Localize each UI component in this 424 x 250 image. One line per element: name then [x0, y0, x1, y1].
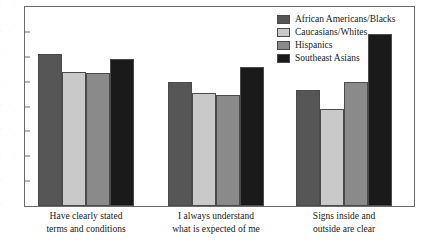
bar [320, 109, 344, 206]
x-axis-label-line: outside are clear [274, 223, 414, 236]
legend-swatch-icon [277, 28, 290, 37]
x-axis-labels: Have clearly statedterms and conditionsI… [25, 210, 414, 248]
legend-item[interactable]: African Americans/Blacks [277, 13, 417, 26]
x-axis-label: Have clearly statedterms and conditions [16, 210, 156, 235]
legend-swatch-icon [277, 41, 290, 50]
bar [240, 67, 264, 206]
bar [168, 82, 192, 206]
bar [216, 95, 240, 206]
x-axis-label-line: terms and conditions [16, 223, 156, 236]
legend-label: Hispanics [295, 40, 332, 50]
legend-label: Caucasians/Whites [295, 27, 367, 37]
legend-item[interactable]: Southeast Asians [277, 52, 417, 65]
x-axis-label: I always understandwhat is expected of m… [146, 210, 286, 235]
legend-swatch-icon [277, 15, 290, 24]
bar-group [38, 7, 134, 206]
x-axis-label-line: Signs inside and [274, 210, 414, 223]
bar [86, 73, 110, 206]
legend-item[interactable]: Hispanics [277, 39, 417, 52]
x-axis-label-line: I always understand [146, 210, 286, 223]
bar-group [168, 7, 264, 206]
bar [38, 54, 62, 206]
bar [62, 72, 86, 206]
bar [192, 93, 216, 206]
legend-item[interactable]: Caucasians/Whites [277, 26, 417, 39]
bar [344, 82, 368, 206]
x-axis-label: Signs inside andoutside are clear [274, 210, 414, 235]
bar-chart: 01020304050607080 Have clearly statedter… [0, 0, 424, 250]
legend-label: African Americans/Blacks [295, 14, 396, 24]
bar [296, 90, 320, 206]
x-axis-label-line: what is expected of me [146, 223, 286, 236]
bar [110, 59, 134, 206]
legend: African Americans/BlacksCaucasians/White… [277, 13, 417, 65]
legend-label: Southeast Asians [295, 53, 360, 63]
x-axis-label-line: Have clearly stated [16, 210, 156, 223]
legend-swatch-icon [277, 54, 290, 63]
